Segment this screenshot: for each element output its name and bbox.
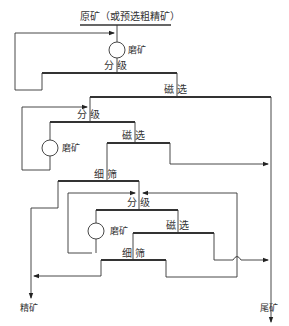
mill-2-icon xyxy=(42,140,58,156)
magsep-2-label: 磁 选 xyxy=(122,131,145,141)
magsep-1-label: 磁 选 xyxy=(164,85,187,95)
grind-2-label: 磨矿 xyxy=(62,143,80,153)
classify-1-label: 分 级 xyxy=(104,61,127,71)
classify-2-label: 分 级 xyxy=(77,110,100,120)
screen-2-label: 细 筛 xyxy=(122,249,145,259)
grind-3-label: 磨矿 xyxy=(110,226,128,236)
concentrate-label: 精矿 xyxy=(20,303,38,313)
mill-1-icon xyxy=(109,42,125,58)
mill-3-icon xyxy=(88,223,104,239)
screen-1-label: 细 筛 xyxy=(94,170,117,180)
tailings-label: 尾矿 xyxy=(260,303,278,313)
classify-3-label: 分 级 xyxy=(127,198,150,208)
feed-label: 原矿（或预选粗精矿） xyxy=(80,12,180,22)
magsep-3-label: 磁 选 xyxy=(166,221,189,231)
grind-1-label: 磨矿 xyxy=(128,45,146,55)
